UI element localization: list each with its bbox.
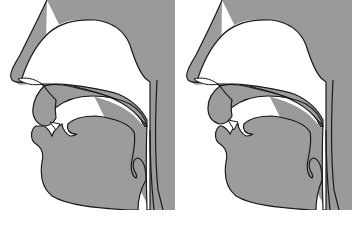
vocal-tract-diagram-left [0,0,178,210]
tongue-and-jaw [32,116,147,210]
tongue-and-jaw [216,116,323,210]
vocal-tract-diagram-right [180,0,358,210]
